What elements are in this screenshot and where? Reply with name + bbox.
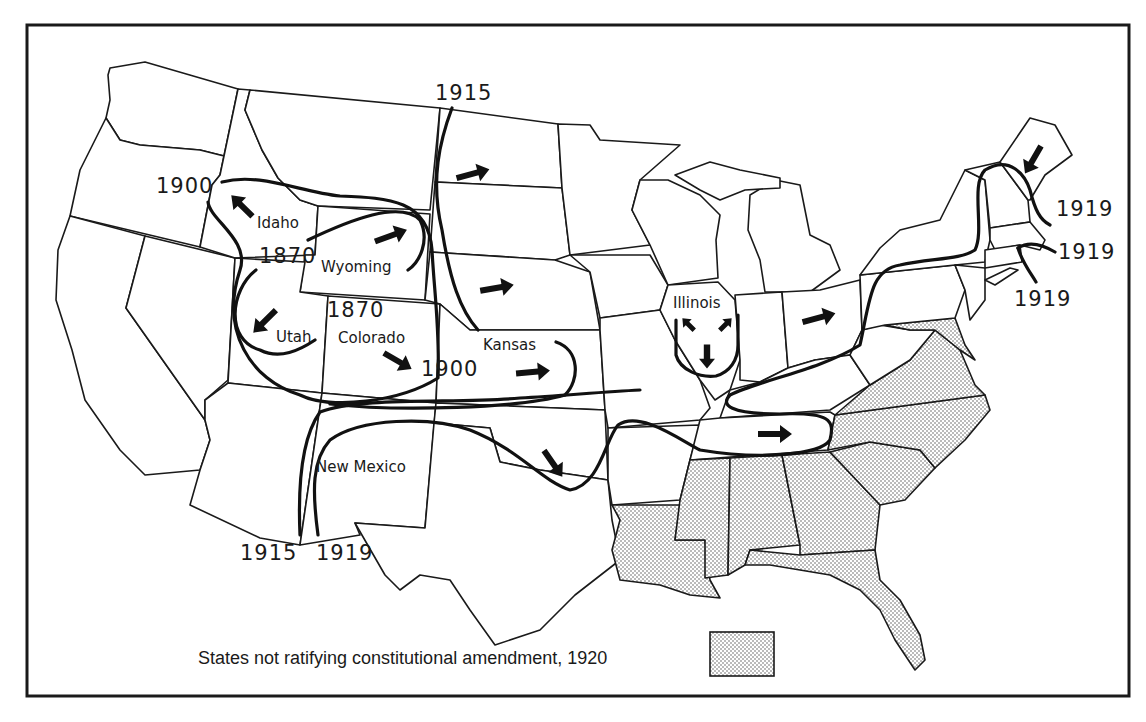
year-1870-utah: 1870: [327, 298, 384, 322]
long-island: [985, 268, 1018, 285]
suffrage-map: Idaho Wyoming Utah Colorado Kansas Illin…: [0, 0, 1146, 722]
state-wyoming: [300, 206, 430, 300]
year-1915-south: 1915: [240, 541, 297, 565]
legend: States not ratifying constitutional amen…: [198, 632, 774, 676]
label-utah: Utah: [276, 328, 312, 346]
year-1919-maine: 1919: [1056, 197, 1113, 221]
year-1900-colorado: 1900: [421, 357, 478, 381]
state-north-dakota: [435, 108, 562, 188]
legend-swatch: [710, 632, 774, 676]
label-idaho: Idaho: [257, 214, 299, 232]
year-1870-wyoming: 1870: [259, 244, 316, 268]
state-michigan: [748, 180, 840, 292]
label-colorado: Colorado: [338, 329, 405, 347]
label-new-mexico: New Mexico: [316, 458, 406, 476]
state-connecticut: [985, 245, 1022, 268]
front-1919-ny: [1018, 248, 1036, 282]
us-states: [56, 62, 1072, 670]
year-1915-north: 1915: [435, 81, 492, 105]
legend-label: States not ratifying constitutional amen…: [198, 648, 607, 668]
year-1919-south: 1919: [316, 541, 373, 565]
year-1900-oregon: 1900: [156, 174, 213, 198]
year-1919-ny: 1919: [1014, 287, 1071, 311]
label-wyoming: Wyoming: [321, 258, 391, 276]
label-kansas: Kansas: [483, 336, 536, 354]
label-illinois: Illinois: [673, 294, 721, 312]
state-indiana: [735, 292, 788, 382]
state-south-dakota: [430, 182, 570, 260]
year-1919-mass: 1919: [1058, 240, 1115, 264]
